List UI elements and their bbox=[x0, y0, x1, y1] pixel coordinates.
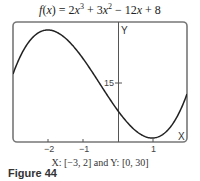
function-curve bbox=[13, 30, 187, 138]
x-tick-label: −2 bbox=[44, 144, 54, 154]
x-tick-label: 1 bbox=[151, 144, 156, 154]
y-axis-label: Y bbox=[121, 25, 128, 36]
plot-area: Y X 15 −2 −1 1 bbox=[0, 0, 200, 181]
window-frame bbox=[13, 22, 187, 142]
y-tick-label: 15 bbox=[104, 78, 114, 88]
x-axis-label: X bbox=[178, 131, 185, 142]
figure-label: Figure 44 bbox=[8, 167, 57, 179]
x-tick-label: −1 bbox=[79, 144, 89, 154]
